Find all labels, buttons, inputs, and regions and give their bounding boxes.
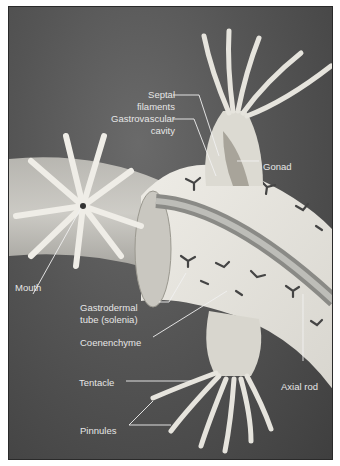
- label-line: tube (solenia): [80, 314, 138, 326]
- label-axial-rod: Axial rod: [281, 381, 318, 393]
- lower-tentacles: [153, 373, 271, 451]
- label-gonad: Gonad: [263, 161, 292, 173]
- label-line: Septal: [119, 89, 175, 101]
- label-gastrodermal-tube: Gastrodermal tube (solenia): [80, 302, 138, 325]
- label-mouth: Mouth: [15, 282, 41, 294]
- label-septal-filaments: Septal filaments: [119, 89, 175, 112]
- label-pinnules: Pinnules: [80, 425, 116, 437]
- label-coenenchyme: Coenenchyme: [80, 337, 141, 349]
- label-line: Gastrovascular: [89, 113, 175, 125]
- upper-tentacles: [204, 31, 331, 116]
- diagram-frame: Septal filaments Gastrovascular cavity G…: [8, 6, 333, 460]
- label-line: cavity: [89, 125, 175, 137]
- label-line: Gastrodermal: [80, 302, 138, 314]
- label-tentacle: Tentacle: [79, 377, 114, 389]
- label-line: filaments: [119, 101, 175, 113]
- label-gastrovascular-cavity: Gastrovascular cavity: [89, 113, 175, 136]
- lower-polyp-body: [206, 311, 261, 376]
